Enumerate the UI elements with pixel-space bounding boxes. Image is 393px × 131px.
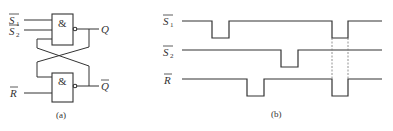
top-gate-inverter-bubble [73, 27, 77, 31]
svg-text:2: 2 [16, 31, 20, 39]
label-q-bar: Q [101, 80, 109, 92]
bottom-gate-inverter-bubble [73, 84, 77, 88]
svg-text:1: 1 [16, 20, 20, 28]
svg-text:S: S [163, 15, 169, 27]
svg-text:Q: Q [101, 23, 109, 35]
svg-text:S: S [163, 46, 169, 58]
timing-diagram: S 1 S 2 R (b) [163, 15, 382, 119]
caption-b: (b) [271, 109, 282, 119]
label-q: Q [101, 23, 109, 35]
s1-waveform [182, 21, 382, 38]
r-waveform [182, 79, 382, 96]
top-gate-symbol: & [58, 17, 67, 29]
label-r-bar: R [9, 87, 18, 99]
svg-text:2: 2 [170, 52, 174, 60]
latch-circuit: & & S 1 S 2 R Q [9, 14, 109, 120]
caption-a: (a) [56, 110, 66, 120]
svg-text:R: R [163, 74, 171, 86]
svg-text:R: R [9, 87, 17, 99]
svg-text:S: S [9, 25, 15, 37]
s2-waveform [182, 50, 382, 67]
waveform-label-r: R [163, 74, 172, 86]
bottom-gate-symbol: & [58, 75, 67, 87]
waveform-label-s1: S 1 [163, 15, 174, 29]
svg-text:Q: Q [101, 80, 109, 92]
svg-text:1: 1 [170, 21, 174, 29]
waveform-label-s2: S 2 [163, 46, 174, 60]
rs-latch-diagram: & & S 1 S 2 R Q [0, 0, 393, 131]
